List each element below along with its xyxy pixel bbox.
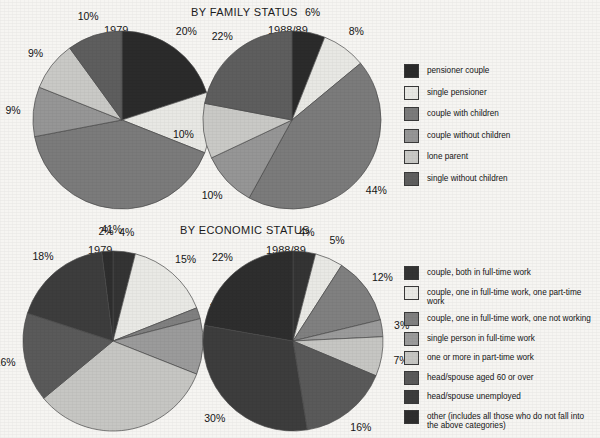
pie-chart-family-1979: 20%11%41%9%9%10%	[32, 30, 212, 210]
pie-slice[interactable]	[204, 251, 293, 341]
legend-item-family-label: pensioner couple	[427, 64, 489, 76]
legend-item-family-row[interactable]: lone parent	[404, 150, 510, 164]
legend-item-economic-label: couple, one in full-time work, one not w…	[427, 312, 591, 324]
legend-item-economic-row[interactable]: couple, one in full-time work, one not w…	[404, 312, 600, 326]
section-title-economic: BY ECONOMIC STATUS	[180, 224, 310, 236]
pie-slice-percent-label: 5%	[329, 234, 344, 246]
legend-item-economic-row[interactable]: single person in full-time work	[404, 332, 600, 346]
legend-item-family-row[interactable]: couple without children	[404, 129, 510, 143]
legend-item-family-row[interactable]: pensioner couple	[404, 64, 510, 78]
pie-slice-percent-label: 18%	[32, 250, 53, 262]
legend-item-economic-row[interactable]: couple, both in full-time work	[404, 266, 600, 280]
legend-item-family-row[interactable]: couple with children	[404, 107, 510, 121]
pie-slice-percent-label: 10%	[78, 10, 99, 22]
pie-slice-percent-label: 9%	[5, 104, 20, 116]
pie-svg	[22, 250, 204, 432]
legend-swatch-icon	[404, 332, 419, 346]
legend-swatch-icon	[404, 86, 419, 100]
legend-family: pensioner couplesingle pensionercouple w…	[404, 64, 510, 193]
section-title-family: BY FAMILY STATUS	[191, 6, 298, 18]
legend-swatch-icon	[404, 107, 419, 121]
pie-svg	[32, 30, 212, 210]
legend-item-economic-row[interactable]: couple, one in full-time work, one part-…	[404, 286, 600, 307]
legend-economic: couple, both in full-time workcouple, on…	[404, 266, 600, 436]
legend-item-economic-label: single person in full-time work	[427, 332, 535, 344]
pie-slice-percent-label: 22%	[212, 251, 233, 263]
legend-item-family-label: single without children	[427, 172, 508, 184]
pie-svg	[202, 30, 382, 210]
legend-swatch-icon	[404, 266, 419, 280]
legend-swatch-icon	[404, 410, 419, 424]
legend-swatch-icon	[404, 150, 419, 164]
legend-swatch-icon	[404, 286, 419, 300]
pie-slice-percent-label: 30%	[204, 412, 225, 424]
pie-slice-percent-label: 44%	[366, 184, 387, 196]
pie-slice-percent-label: 9%	[28, 47, 43, 59]
pie-slice-percent-label: 10%	[173, 128, 194, 140]
pie-chart-economic-1988: 4%5%12%3%7%16%30%22%	[202, 250, 384, 432]
pie-slice-percent-label: 15%	[175, 253, 196, 265]
legend-item-family-label: single pensioner	[427, 86, 487, 98]
pie-slice-percent-label: 10%	[202, 189, 223, 201]
pie-slice-percent-label: 16%	[350, 421, 371, 433]
legend-item-economic-label: one or more in part-time work	[427, 351, 534, 363]
pie-chart-family-1988: 6%8%44%10%10%22%	[202, 30, 382, 210]
pie-slice-percent-label: 4%	[299, 226, 314, 238]
legend-item-economic-row[interactable]: head/spouse aged 60 or over	[404, 371, 600, 385]
legend-swatch-icon	[404, 390, 419, 404]
legend-swatch-icon	[404, 129, 419, 143]
pie-chart-economic-1979: 4%15%2%10%33%16%18%2%	[22, 250, 204, 432]
legend-item-economic-label: head/spouse aged 60 or over	[427, 371, 534, 383]
legend-swatch-icon	[404, 172, 419, 186]
pie-slice-percent-label: 20%	[176, 25, 197, 37]
pie-slice-percent-label: 22%	[212, 30, 233, 42]
legend-item-family-label: couple with children	[427, 107, 499, 119]
legend-swatch-icon	[404, 371, 419, 385]
legend-item-economic-label: other (includes all those who do not fal…	[427, 410, 584, 431]
legend-item-economic-label: couple, one in full-time work, one part-…	[427, 286, 600, 307]
legend-item-family-row[interactable]: single without children	[404, 172, 510, 186]
legend-item-family-row[interactable]: single pensioner	[404, 86, 510, 100]
legend-item-family-label: couple without children	[427, 129, 510, 141]
pie-svg	[202, 250, 384, 432]
pie-slice-percent-label: 2%	[99, 225, 114, 237]
pie-slice-percent-label: 16%	[0, 356, 16, 368]
legend-swatch-icon	[404, 312, 419, 326]
pie-slice-percent-label: 12%	[372, 271, 393, 283]
legend-item-economic-label: head/spouse unemployed	[427, 390, 521, 402]
pie-slice-percent-label: 8%	[349, 25, 364, 37]
legend-item-economic-row[interactable]: other (includes all those who do not fal…	[404, 410, 600, 431]
legend-item-economic-row[interactable]: one or more in part-time work	[404, 351, 600, 365]
pie-slice-percent-label: 4%	[119, 226, 134, 238]
chart-page: BY FAMILY STATUS 1979 1988/89 BY ECONOMI…	[0, 0, 600, 438]
legend-item-economic-label: couple, both in full-time work	[427, 266, 531, 278]
pie-slice-percent-label: 6%	[305, 6, 320, 18]
legend-swatch-icon	[404, 351, 419, 365]
legend-item-economic-row[interactable]: head/spouse unemployed	[404, 390, 600, 404]
legend-item-family-label: lone parent	[427, 150, 468, 162]
legend-swatch-icon	[404, 64, 419, 78]
